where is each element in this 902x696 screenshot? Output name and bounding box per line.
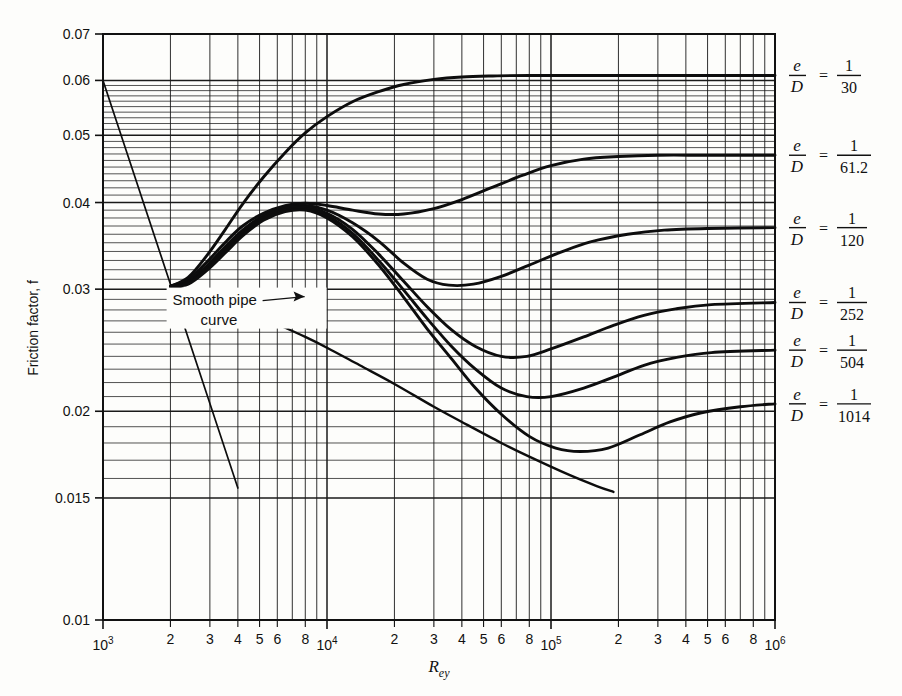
legend-denominator: D [790, 77, 804, 96]
x-tick-label: 8 [525, 631, 533, 647]
legend-equals: = [819, 67, 828, 84]
x-tick-label: 5 [480, 631, 488, 647]
x-tick-label: 8 [749, 631, 757, 647]
x-tick-label: 6 [721, 631, 729, 647]
x-tick-label: 3 [206, 631, 214, 647]
legend-fraction-numerator: 1 [848, 210, 856, 227]
y-tick-label: 0.015 [55, 490, 90, 506]
x-tick-label: 2 [167, 631, 175, 647]
legend-fraction-denominator: 252 [840, 306, 864, 323]
legend-fraction-numerator: 1 [845, 57, 853, 74]
legend-numerator: e [793, 283, 801, 302]
x-tick-label: 3 [430, 631, 438, 647]
legend-fraction-denominator: 120 [840, 232, 864, 249]
x-tick-label: 8 [301, 631, 309, 647]
legend-fraction-denominator: 61.2 [840, 159, 868, 176]
chart-background [0, 0, 902, 696]
x-tick-label: 2 [615, 631, 623, 647]
legend-fraction-numerator: 1 [848, 332, 856, 349]
y-axis-label: Friction factor, f [25, 280, 41, 376]
x-tick-label: 5 [704, 631, 712, 647]
legend-fraction-numerator: 1 [850, 386, 858, 403]
legend-numerator: e [793, 56, 801, 75]
y-tick-label: 0.05 [63, 127, 90, 143]
legend-fraction-denominator: 1014 [838, 408, 870, 425]
legend-numerator: e [793, 136, 801, 155]
legend-numerator: e [793, 331, 801, 350]
legend-numerator: e [793, 385, 801, 404]
legend-denominator: D [790, 352, 804, 371]
x-tick-label: 4 [458, 631, 466, 647]
chart-svg: 103234568104234568105234568106 0.070.060… [0, 0, 902, 696]
x-tick-label: 4 [682, 631, 690, 647]
legend-fraction-numerator: 1 [850, 137, 858, 154]
legend-equals: = [819, 294, 828, 311]
legend-fraction-denominator: 504 [840, 354, 864, 371]
y-tick-label: 0.01 [63, 612, 90, 628]
x-tick-label: 2 [391, 631, 399, 647]
legend-equals: = [819, 342, 828, 359]
legend-fraction-denominator: 30 [841, 79, 857, 96]
x-tick-label: 3 [654, 631, 662, 647]
annotation-line-2: curve [201, 311, 238, 328]
legend-equals: = [819, 396, 828, 413]
legend-denominator: D [790, 157, 804, 176]
friction-factor-chart: 103234568104234568105234568106 0.070.060… [0, 0, 902, 696]
legend-denominator: D [790, 406, 804, 425]
x-tick-label: 5 [256, 631, 264, 647]
legend-fraction-numerator: 1 [848, 284, 856, 301]
annotation-line-1: Smooth pipe [173, 291, 257, 308]
y-tick-label: 0.06 [63, 72, 90, 88]
annotation-layer: Smooth pipecurve [167, 288, 327, 329]
x-tick-label: 6 [497, 631, 505, 647]
y-tick-label: 0.02 [63, 403, 90, 419]
legend-numerator: e [793, 209, 801, 228]
y-tick-label: 0.03 [63, 281, 90, 297]
legend-denominator: D [790, 304, 804, 323]
y-tick-label: 0.04 [63, 195, 90, 211]
legend-equals: = [819, 147, 828, 164]
x-tick-label: 6 [273, 631, 281, 647]
x-tick-label: 4 [234, 631, 242, 647]
legend-denominator: D [790, 230, 804, 249]
y-tick-label: 0.07 [63, 26, 90, 42]
legend-equals: = [819, 220, 828, 237]
